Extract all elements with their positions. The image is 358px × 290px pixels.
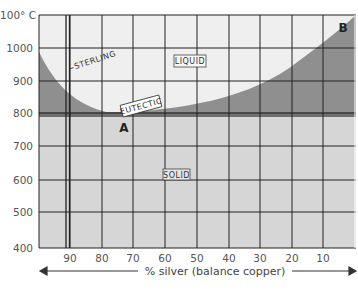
x-tick-30: 30 — [253, 252, 266, 264]
x-tick-90: 90 — [63, 252, 76, 264]
solid-label: SOLID — [163, 169, 190, 180]
y-tick-900: 900 — [13, 75, 33, 87]
x-tick-20: 20 — [285, 252, 298, 264]
x-tick-80: 80 — [95, 252, 108, 264]
x-tick-50: 50 — [190, 252, 203, 264]
y-tick-400: 400 — [13, 242, 33, 254]
y-tick-700: 700 — [13, 140, 33, 152]
liquid-text: LIQUID — [175, 57, 206, 66]
x-tick-10: 10 — [316, 252, 329, 264]
liquid-label: LIQUID — [174, 55, 206, 67]
y-tick-1100: 1100° C — [0, 9, 36, 21]
solid-text: SOLID — [163, 171, 190, 180]
right-edge-fade — [354, 15, 358, 248]
x-tick-40: 40 — [222, 252, 235, 264]
x-axis-title: % silver (balance copper) — [145, 265, 286, 278]
point-a-label: A — [119, 121, 129, 135]
y-tick-1000: 1000 — [6, 42, 33, 54]
point-b-label: B — [338, 21, 347, 35]
y-tick-500: 500 — [13, 206, 33, 218]
x-axis-labels: 90 80 70 60 50 40 30 20 10 — [63, 252, 329, 264]
x-tick-70: 70 — [126, 252, 139, 264]
phase-diagram: 1100° C 1000 900 800 700 600 500 400 90 … — [0, 0, 358, 290]
x-tick-60: 60 — [158, 252, 171, 264]
y-axis-labels: 1100° C 1000 900 800 700 600 500 400 — [0, 9, 36, 254]
y-tick-800: 800 — [13, 107, 33, 119]
y-tick-600: 600 — [13, 174, 33, 186]
